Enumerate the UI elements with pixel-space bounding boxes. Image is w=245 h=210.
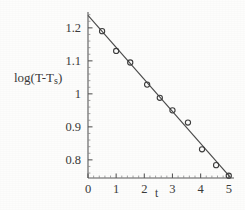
y-axis-title: log(T-Ts) bbox=[14, 70, 62, 86]
x-axis-title: t bbox=[155, 187, 159, 199]
chart-figure: 0123450.80.911.11.2 log(T-Ts) t bbox=[0, 0, 245, 210]
axis-labels: log(T-Ts) t bbox=[0, 0, 245, 210]
